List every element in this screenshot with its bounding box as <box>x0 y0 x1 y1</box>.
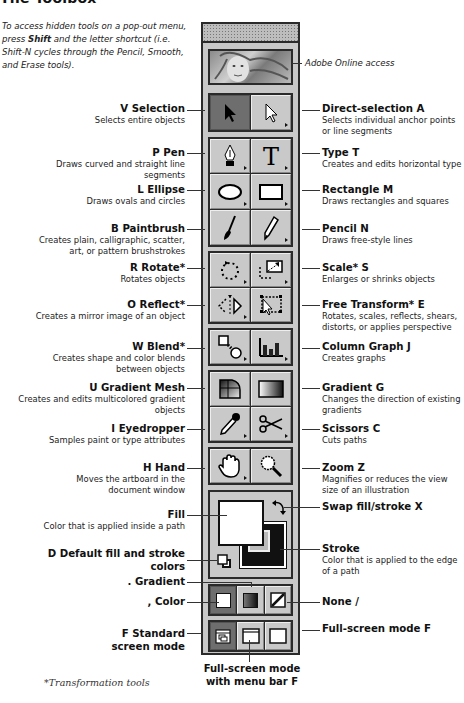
popout-indicator <box>285 123 288 127</box>
full-screen-mode-button[interactable] <box>265 622 291 650</box>
stroke-label: StrokeColor that is applied to the edge … <box>322 543 462 577</box>
leader-line <box>187 305 205 306</box>
blend-graph-group <box>208 328 293 366</box>
pencil-tool-button[interactable] <box>251 210 291 245</box>
rotate-label: R Rotate*Rotates objects <box>35 262 185 285</box>
full-screen-icon <box>269 628 287 644</box>
color-mode-button[interactable] <box>210 586 236 614</box>
zoom-tool-button[interactable] <box>251 449 291 483</box>
standard-screen-mode-button[interactable] <box>210 622 236 650</box>
color-mode-label: , Color <box>35 596 185 608</box>
pen-nib-icon <box>222 144 238 168</box>
gradient-swatch-icon <box>243 593 258 608</box>
rectangle-label: Rectangle MDraws rectangles and squares <box>322 184 462 207</box>
pencil-icon <box>261 215 281 241</box>
leader-line <box>302 153 320 154</box>
eyedropper-label: I EyedropperSamples paint or type attrib… <box>15 423 185 446</box>
page-title: The Toolbox <box>0 0 96 6</box>
standard-screen-icon <box>215 629 231 644</box>
intro-text: To access hidden tools on a pop-out menu… <box>2 20 187 72</box>
view-tools-group <box>208 447 293 485</box>
screen-mode-group <box>208 620 293 652</box>
color-swatch-icon <box>216 593 231 608</box>
leader-line <box>251 582 252 587</box>
blend-label: W Blend*Creates shape and color blends b… <box>35 341 185 375</box>
leader-line <box>302 305 320 306</box>
gradient-label: Gradient GChanges the direction of exist… <box>322 382 462 416</box>
paintbrush-tool-button[interactable] <box>210 210 250 245</box>
ellipse-tool-button[interactable] <box>210 174 250 209</box>
eyedropper-tool-button[interactable] <box>210 407 250 441</box>
default-colors-icon[interactable] <box>217 554 233 570</box>
full-screen-menu-bar-mode-button[interactable] <box>237 622 264 650</box>
toolbox-title-bar[interactable] <box>203 24 298 43</box>
pen-tool-button[interactable] <box>210 139 250 173</box>
ellipse-icon <box>217 183 243 201</box>
leader-line <box>249 640 250 662</box>
column-graph-label: Column Graph JCreates graphs <box>322 341 462 364</box>
svg-text:T: T <box>263 144 279 168</box>
popout-indicator <box>244 166 247 170</box>
reflect-tool-button[interactable] <box>210 288 250 322</box>
standard-screen-label: F Standard screen mode <box>85 627 185 653</box>
rotate-icon <box>218 258 242 282</box>
scissors-tool-button[interactable] <box>251 407 291 441</box>
reflect-icon <box>217 293 243 317</box>
popout-indicator <box>244 434 247 438</box>
leader-line <box>187 429 205 430</box>
leader-line <box>302 229 320 230</box>
scale-tool-button[interactable] <box>251 253 291 287</box>
none-mode-button[interactable] <box>265 586 291 614</box>
magnifier-icon <box>259 454 283 478</box>
venus-image-icon <box>210 51 291 83</box>
scissors-label: Scissors CCuts paths <box>322 423 462 446</box>
leader-line <box>187 153 205 154</box>
gradient-mesh-tool-button[interactable] <box>210 372 250 406</box>
pen-label: P PenDraws curved and straight line segm… <box>35 147 185 181</box>
direct-selection-label: Direct-selection ASelects individual anc… <box>322 103 462 137</box>
column-graph-tool-button[interactable] <box>251 330 291 364</box>
type-label: Type TCreates and edits horizontal type <box>322 147 462 170</box>
popout-indicator <box>285 166 288 170</box>
blend-icon <box>217 334 243 360</box>
popout-indicator <box>285 238 288 242</box>
hand-tool-button[interactable] <box>210 449 250 483</box>
gradient-mesh-icon <box>218 378 242 400</box>
scale-icon <box>258 259 284 281</box>
rectangle-tool-button[interactable] <box>251 174 291 209</box>
leader-line <box>187 348 205 349</box>
selection-tool-button[interactable] <box>210 95 250 130</box>
leader-line <box>187 633 203 634</box>
leader-line <box>187 388 205 389</box>
color-mode-group <box>208 584 293 616</box>
eyedropper-icon <box>218 412 242 436</box>
rotate-tool-button[interactable] <box>210 253 250 287</box>
fill-swatch[interactable] <box>218 500 264 546</box>
leader-line <box>302 268 320 269</box>
leader-line <box>280 549 320 550</box>
adobe-online-button[interactable] <box>208 49 293 85</box>
leader-line <box>187 268 205 269</box>
popout-indicator <box>285 357 288 361</box>
drawing-tools-group: T <box>208 137 293 247</box>
popout-indicator <box>244 476 247 480</box>
blend-tool-button[interactable] <box>210 330 250 364</box>
direct-selection-tool-button[interactable] <box>251 95 291 130</box>
gradient-mode-button[interactable] <box>237 586 264 614</box>
gradient-tool-button[interactable] <box>251 372 291 406</box>
leader-line <box>302 388 320 389</box>
hollow-arrow-icon <box>263 103 279 123</box>
leader-line <box>302 429 320 430</box>
free-transform-label: Free Transform* ERotates, scales, reflec… <box>322 299 464 333</box>
free-transform-tool-button[interactable] <box>251 288 291 322</box>
hand-label: H HandMoves the artboard in the document… <box>35 462 185 496</box>
none-mode-label: None / <box>322 596 462 608</box>
popout-indicator <box>244 357 247 361</box>
type-tool-button[interactable]: T <box>251 139 291 173</box>
popout-indicator <box>244 202 247 206</box>
type-t-icon: T <box>260 144 282 168</box>
swap-fill-stroke-label: Swap fill/stroke X <box>322 501 462 513</box>
rectangle-icon <box>258 183 284 201</box>
ellipse-label: L EllipseDraws ovals and circles <box>35 184 185 207</box>
full-screen-menu-bar-label: Full-screen mode with menu bar F <box>196 662 308 688</box>
